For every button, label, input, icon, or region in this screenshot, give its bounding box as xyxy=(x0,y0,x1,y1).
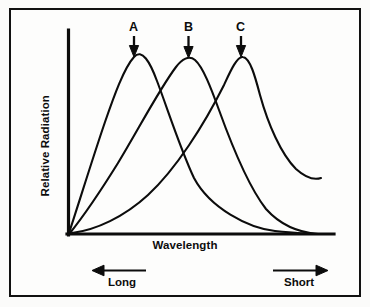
figure-root: A B C Relative Radiation Wavelength Long… xyxy=(0,0,370,307)
curve-label-c: C xyxy=(236,21,245,34)
direction-label-short: Short xyxy=(284,277,314,289)
figure-border xyxy=(9,8,361,297)
curve-label-a: A xyxy=(129,21,138,34)
x-axis-label: Wavelength xyxy=(110,240,260,252)
curve-label-b: B xyxy=(184,21,193,34)
direction-label-long: Long xyxy=(108,277,136,289)
y-axis-label: Relative Radiation xyxy=(40,86,52,206)
